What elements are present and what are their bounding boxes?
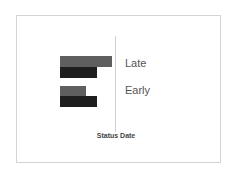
- chart-frame: [16, 15, 221, 163]
- category-label-early: Early: [125, 84, 150, 96]
- category-label-late: Late: [125, 57, 146, 69]
- bar-early-series2: [60, 96, 97, 107]
- x-axis-label: Status Date: [90, 132, 142, 139]
- bar-late-series2: [60, 67, 97, 78]
- bar-late-series1: [60, 56, 112, 67]
- category-axis-line: [115, 36, 116, 132]
